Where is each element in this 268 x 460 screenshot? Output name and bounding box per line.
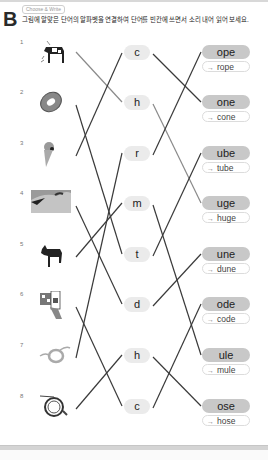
letter-ending-line (153, 357, 201, 406)
letter-ending-line (153, 304, 201, 408)
answer-text: hose (217, 416, 235, 426)
ending-option[interactable]: ule (202, 348, 250, 362)
sand-dune-icon (31, 190, 71, 217)
picture-number: 8 (20, 393, 23, 399)
picture-letter-line (76, 355, 122, 409)
qr-code-icon (38, 291, 64, 325)
ending-option[interactable]: one (202, 95, 250, 109)
picture-number: 1 (20, 39, 23, 45)
picture-letter-line (76, 53, 122, 156)
letter-option[interactable]: c (124, 399, 150, 414)
answer-field[interactable]: →mule (202, 364, 250, 375)
arrow-icon: → (207, 316, 214, 323)
tube-ring-icon (38, 89, 64, 119)
arrow-icon: → (207, 215, 214, 222)
letter-ending-line (153, 254, 201, 306)
answer-text: code (217, 314, 235, 324)
arrow-icon: → (207, 266, 214, 273)
letter-option[interactable]: r (124, 146, 150, 161)
arrow-icon: → (207, 367, 214, 374)
ending-option[interactable]: une (202, 247, 250, 261)
mule-icon (38, 241, 64, 273)
letter-option[interactable]: h (124, 95, 150, 110)
answer-field[interactable]: →huge (202, 212, 250, 223)
answer-text: rope (217, 62, 234, 72)
picture-number: 3 (20, 140, 23, 146)
answer-field[interactable]: →cone (202, 111, 250, 122)
rope-icon (38, 342, 72, 370)
picture-number: 4 (20, 190, 23, 196)
answer-field[interactable]: →hose (202, 415, 250, 426)
letter-ending-line (153, 104, 201, 203)
ending-option[interactable]: ope (202, 45, 250, 59)
picture-number: 7 (20, 342, 23, 348)
answer-field[interactable]: →tube (202, 162, 250, 173)
picture-letter-line (76, 105, 122, 254)
ending-option[interactable]: uge (202, 196, 250, 210)
letter-option[interactable]: m (124, 196, 150, 211)
answer-field[interactable]: →dune (202, 263, 250, 274)
answer-text: tube (217, 163, 234, 173)
hose-icon (38, 393, 74, 423)
picture-number: 2 (20, 89, 23, 95)
ending-option[interactable]: ose (202, 399, 250, 413)
letter-option[interactable]: d (124, 297, 150, 312)
page-footer (0, 450, 268, 460)
ice-cream-cone-icon (38, 140, 58, 172)
answer-field[interactable]: →rope (202, 61, 250, 72)
picture-number: 5 (20, 241, 23, 247)
ending-option[interactable]: ube (202, 146, 250, 160)
arrow-icon: → (207, 114, 214, 121)
answer-text: cone (217, 112, 235, 122)
answer-text: mule (217, 365, 235, 375)
letter-ending-line (153, 54, 201, 102)
picture-letter-line (76, 153, 122, 358)
arrow-icon: → (207, 418, 214, 425)
letter-option[interactable]: t (124, 247, 150, 262)
ending-option[interactable]: ode (202, 297, 250, 311)
picture-letter-line (76, 307, 122, 406)
arrow-icon: → (207, 165, 214, 172)
letter-option[interactable]: c (124, 45, 150, 60)
picture-number: 6 (20, 291, 23, 297)
arrow-icon: → (207, 64, 214, 71)
answer-text: dune (217, 264, 236, 274)
cow-icon (38, 39, 68, 71)
answer-text: huge (217, 213, 236, 223)
letter-ending-line (153, 52, 201, 155)
answer-field[interactable]: →code (202, 313, 250, 324)
letter-option[interactable]: h (124, 348, 150, 363)
letter-ending-line (153, 153, 201, 256)
picture-letter-line (76, 52, 122, 102)
